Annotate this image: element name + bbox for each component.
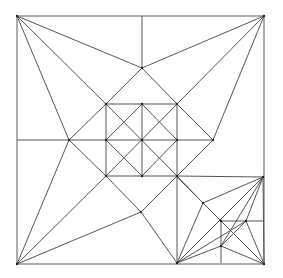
vertex-dot [141,175,143,177]
crease-line [177,16,264,104]
vertex-dot [263,15,265,17]
crease-line [142,68,177,104]
crease-line [17,16,106,104]
vertex-dot [220,220,222,222]
vertex-dot [16,15,18,17]
crease-lines [17,16,264,264]
vertex-dot [176,175,178,177]
vertex-dot [140,211,142,213]
crease-line [106,176,141,212]
crease-line [69,104,106,140]
vertex-dot [263,263,265,265]
vertex-dot [105,139,107,141]
crease-line [17,176,106,264]
vertex-dot [262,176,264,178]
vertex-dot [202,202,204,204]
crease-line [177,140,213,176]
vertex-dot [141,103,143,105]
vertex-dot [212,139,214,141]
crease-pattern-diagram [0,0,283,278]
crease-line [141,212,177,263]
crease-line [203,203,221,221]
vertex-dot [176,262,178,264]
vertex-dot [176,139,178,141]
vertex-dot [68,139,70,141]
crease-line [69,140,106,176]
vertex-dot [176,103,178,105]
vertex-dot [141,139,143,141]
crease-line [177,104,213,140]
crease-line [221,177,263,246]
crease-line [141,176,177,212]
crease-line [177,176,203,203]
crease-line [177,221,246,263]
vertex-dot [141,67,143,69]
vertex-dot [220,245,222,247]
vertex-dot [16,263,18,265]
crease-line [106,68,142,104]
vertex-dot [105,103,107,105]
vertex-dot [245,220,247,222]
crease-line [177,176,263,177]
vertex-dot [105,175,107,177]
